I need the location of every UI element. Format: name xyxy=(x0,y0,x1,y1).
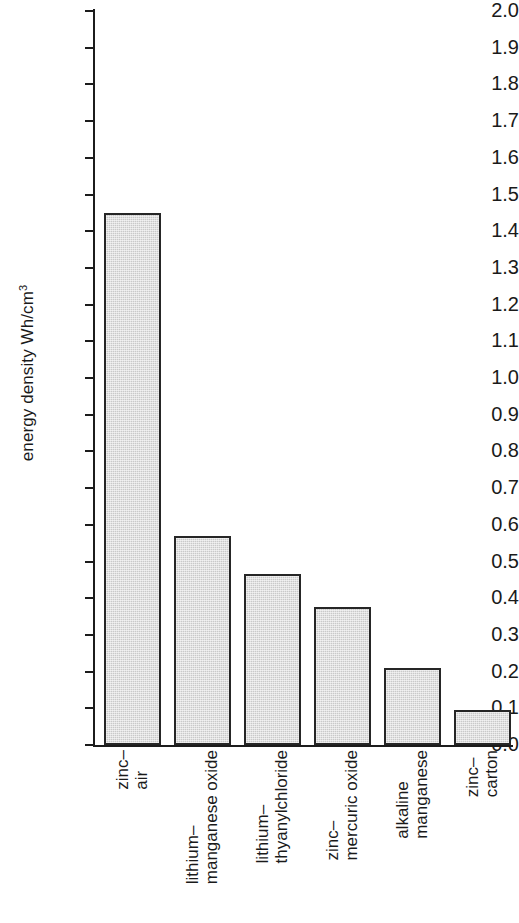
x-axis-category-label-line: air xyxy=(132,750,151,790)
x-axis-category-label-line: carton xyxy=(482,750,501,797)
y-axis-title-superscript: 3 xyxy=(16,284,28,290)
bar xyxy=(384,668,441,745)
x-axis-category-label-line: manganese xyxy=(412,750,431,839)
plot-area xyxy=(93,11,513,745)
x-axis-category-label-line: mercuric oxide xyxy=(342,750,361,861)
x-axis-category-label: zinc–mercuric oxide xyxy=(314,750,371,920)
x-axis-category-label: lithium–manganese oxide xyxy=(174,750,231,920)
y-axis-title: energy density Wh/cm3 xyxy=(0,0,56,745)
bar xyxy=(244,574,301,745)
x-axis-category-label: alkalinemanganese xyxy=(384,750,441,920)
x-axis-category-label-line: alkaline xyxy=(393,781,412,839)
x-axis-category-label: lithium–thyanylchloride xyxy=(244,750,301,920)
x-axis-category-labels: zinc–airlithium–manganese oxidelithium–t… xyxy=(93,750,513,923)
bar xyxy=(314,607,371,745)
bar xyxy=(454,710,511,745)
x-axis-category-label-line: zinc– xyxy=(323,821,342,861)
x-axis-category-label-line: lithium– xyxy=(183,826,202,885)
x-axis-category-label-line: lithium– xyxy=(253,805,272,864)
bar xyxy=(104,213,161,745)
bar-chart: energy density Wh/cm3 0.00.10.20.30.40.5… xyxy=(0,0,519,923)
y-axis-title-text: energy density Wh/cm xyxy=(18,291,37,461)
x-axis-category-label-line: zinc– xyxy=(463,758,482,798)
x-axis-category-label-line: thyanylchloride xyxy=(272,750,291,863)
x-axis-category-label: zinc–carton xyxy=(454,750,511,920)
x-axis-category-label-line: manganese oxide xyxy=(202,750,221,884)
x-axis-category-label: zinc–air xyxy=(104,750,161,920)
x-axis-category-label-line: zinc– xyxy=(113,750,132,790)
x-axis-line xyxy=(93,745,513,747)
bar xyxy=(174,536,231,745)
